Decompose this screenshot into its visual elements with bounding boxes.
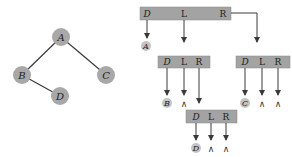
node-box-left: D L R [158,56,210,68]
tree-node-b-label: B [17,70,25,81]
field-left-label: L [181,57,187,67]
field-left-label: L [181,9,187,19]
null-pointer-icon: ∧ [208,144,215,154]
tree-node-a: A [52,28,70,46]
field-data-label: D [162,57,170,67]
value-a-label: A [142,42,149,51]
value-b-label: B [163,99,170,108]
field-left-label: L [208,112,214,122]
value-node-c: C [240,98,250,108]
node-box-right: D L R [236,56,290,68]
abstract-tree: A B C D [13,28,115,105]
field-data-label: D [191,112,199,122]
tree-node-c-label: C [102,70,110,81]
value-d-label: D [192,144,200,153]
field-right-label: R [275,57,282,67]
field-left-label: L [259,57,265,67]
null-pointer-icon: ∧ [181,99,188,109]
null-pointer-icon: ∧ [223,144,230,154]
arrow-top-right [231,13,257,42]
binary-tree-diagram: A B C D D L R A [0,0,292,157]
field-right-label: R [220,9,227,19]
tree-node-d: D [51,87,69,105]
value-c-label: C [242,99,248,108]
field-right-label: R [223,112,230,122]
tree-node-d-label: D [55,91,64,102]
field-data-label: D [142,9,150,19]
null-pointer-icon: ∧ [275,99,282,109]
value-node-b: B [162,98,172,108]
tree-node-a-label: A [56,32,64,43]
value-node-a: A [141,41,151,51]
tree-node-c: C [97,66,115,84]
node-box-bottom: D L R [186,110,237,123]
linked-representation: D L R A D L R B ∧ D L R [140,7,290,154]
tree-node-b: B [13,66,31,84]
field-right-label: R [196,57,203,67]
value-node-d: D [191,143,201,153]
node-box-top: D L R [140,7,231,20]
null-pointer-icon: ∧ [259,99,266,109]
field-data-label: D [240,57,248,67]
